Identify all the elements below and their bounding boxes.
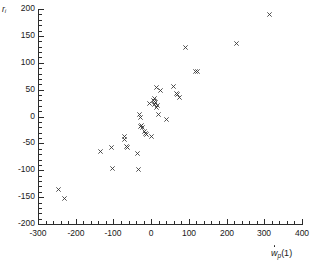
data-point-marker xyxy=(171,84,176,89)
data-point-marker xyxy=(193,69,198,74)
x-axis-minor-tick xyxy=(181,221,182,224)
y-axis-minor-tick xyxy=(39,203,42,204)
x-axis-minor-tick xyxy=(294,221,295,224)
y-axis-minor-tick xyxy=(39,176,42,177)
y-axis-minor-tick xyxy=(39,100,42,101)
x-axis-tick-label: 400 xyxy=(282,229,313,238)
y-axis-tick-label: -150 xyxy=(3,192,35,201)
data-point-marker xyxy=(137,112,142,117)
data-point-marker xyxy=(140,125,145,130)
x-axis-major-tick xyxy=(76,219,77,224)
x-axis-minor-tick xyxy=(46,221,47,224)
data-point-marker xyxy=(125,145,130,150)
y-axis-major-tick xyxy=(39,197,44,198)
x-axis-minor-tick xyxy=(129,221,130,224)
data-point-marker xyxy=(62,196,67,201)
data-point-marker xyxy=(109,145,114,150)
x-axis-minor-tick xyxy=(61,221,62,224)
data-point-marker xyxy=(139,123,144,128)
y-axis-minor-tick xyxy=(39,181,42,182)
y-axis-minor-tick xyxy=(39,219,42,220)
data-point-marker xyxy=(151,98,156,103)
x-axis-tick-label: 0 xyxy=(131,229,171,238)
y-axis-minor-tick xyxy=(39,57,42,58)
y-axis-minor-tick xyxy=(39,192,42,193)
data-point-marker xyxy=(152,99,157,104)
y-axis-minor-tick xyxy=(39,208,42,209)
y-axis-major-tick xyxy=(39,9,44,10)
scatter-plot-figure: ri wp(1) -200-150-100-50050100150200-300… xyxy=(0,0,313,263)
y-axis-minor-tick xyxy=(39,95,42,96)
y-axis-tick-label: 200 xyxy=(3,4,35,13)
y-axis-major-tick xyxy=(39,36,44,37)
data-point-marker xyxy=(110,166,115,171)
data-point-marker xyxy=(135,151,140,156)
y-axis-minor-tick xyxy=(39,31,42,32)
data-point-marker xyxy=(152,96,157,101)
y-axis-major-tick xyxy=(39,224,44,225)
y-axis-major-tick xyxy=(39,143,44,144)
y-axis-major-tick xyxy=(39,90,44,91)
data-point-marker xyxy=(122,137,127,142)
x-axis-minor-tick xyxy=(196,221,197,224)
y-axis-minor-tick xyxy=(39,106,42,107)
y-axis-minor-tick xyxy=(39,74,42,75)
data-point-marker xyxy=(138,115,143,120)
data-point-marker xyxy=(174,91,179,96)
x-axis-minor-tick xyxy=(68,221,69,224)
y-axis-minor-tick xyxy=(39,52,42,53)
data-point-marker xyxy=(155,103,160,108)
y-axis-minor-tick xyxy=(39,20,42,21)
data-point-marker xyxy=(149,134,154,139)
x-axis-major-tick xyxy=(151,219,152,224)
x-axis-minor-tick xyxy=(121,221,122,224)
x-axis-minor-tick xyxy=(91,221,92,224)
y-axis-minor-tick xyxy=(39,79,42,80)
x-axis-minor-tick xyxy=(287,221,288,224)
y-axis-minor-tick xyxy=(39,138,42,139)
data-point-marker xyxy=(98,149,103,154)
x-axis-minor-tick xyxy=(106,221,107,224)
x-axis-line xyxy=(38,224,303,225)
x-axis-minor-tick xyxy=(257,221,258,224)
x-axis-major-tick xyxy=(38,219,39,224)
x-axis-minor-tick xyxy=(242,221,243,224)
data-point-marker xyxy=(138,124,143,129)
y-axis-minor-tick xyxy=(39,165,42,166)
x-axis-title: wp(1) xyxy=(271,248,292,259)
x-axis-minor-tick xyxy=(166,221,167,224)
x-axis-major-tick xyxy=(227,219,228,224)
data-point-marker xyxy=(154,105,159,110)
x-axis-minor-tick xyxy=(279,221,280,224)
y-axis-tick-label: -50 xyxy=(3,138,35,147)
y-axis-minor-tick xyxy=(39,111,42,112)
y-axis-tick-label: -100 xyxy=(3,165,35,174)
x-axis-minor-tick xyxy=(204,221,205,224)
x-axis-major-tick xyxy=(189,219,190,224)
data-point-marker xyxy=(56,187,61,192)
data-point-marker xyxy=(154,85,159,90)
data-point-marker xyxy=(164,117,169,122)
y-axis-major-tick xyxy=(39,170,44,171)
data-point-marker xyxy=(195,69,200,74)
data-point-marker xyxy=(153,100,158,105)
x-axis-tick-label: 200 xyxy=(207,229,247,238)
data-point-marker xyxy=(136,167,141,172)
y-axis-minor-tick xyxy=(39,127,42,128)
y-axis-minor-tick xyxy=(39,47,42,48)
data-point-marker xyxy=(158,88,163,93)
x-axis-minor-tick xyxy=(136,221,137,224)
x-axis-minor-tick xyxy=(211,221,212,224)
x-axis-tick-label: -300 xyxy=(18,229,58,238)
y-axis-minor-tick xyxy=(39,41,42,42)
y-axis-tick-label: 100 xyxy=(3,58,35,67)
x-axis-minor-tick xyxy=(144,221,145,224)
x-axis-major-tick xyxy=(302,219,303,224)
data-point-marker xyxy=(152,102,157,107)
y-axis-major-tick xyxy=(39,117,44,118)
y-axis-tick-label: 150 xyxy=(3,31,35,40)
y-axis-minor-tick xyxy=(39,154,42,155)
y-axis-minor-tick xyxy=(39,122,42,123)
data-point-marker xyxy=(144,132,149,137)
y-axis-minor-tick xyxy=(39,14,42,15)
